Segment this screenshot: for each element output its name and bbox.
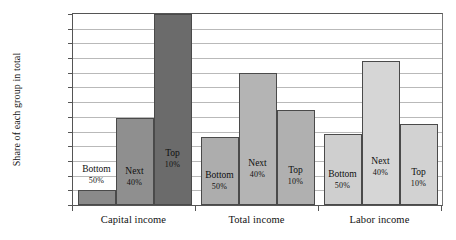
bar-label-share: 10%: [411, 178, 426, 189]
y-tick-mark: [68, 43, 73, 44]
bar-label-group: Next: [125, 166, 143, 176]
x-axis: Capital incomeTotal incomeLabor income: [72, 206, 443, 240]
bar-label-group: Bottom: [328, 169, 357, 179]
bar-label: Bottom50%: [82, 164, 111, 186]
y-tick-mark: [68, 161, 73, 162]
bar-label-share: 10%: [165, 159, 180, 170]
bar-label: Top10%: [411, 167, 426, 189]
bar-label-group: Next: [248, 158, 266, 168]
bar: Bottom50%: [201, 137, 239, 205]
bar-label: Top10%: [288, 165, 303, 187]
bar: Next40%: [239, 73, 277, 205]
y-tick-mark: [68, 190, 73, 191]
bar: Bottom50%: [78, 190, 116, 205]
bar: Bottom50%: [324, 134, 362, 205]
bar: Top10%: [277, 110, 315, 206]
y-tick-mark: [68, 132, 73, 133]
y-tick-mark: [68, 102, 73, 103]
bar-label-group: Top: [411, 167, 426, 177]
x-category-label: Total income: [228, 214, 284, 225]
x-tick-mark: [441, 206, 442, 211]
y-tick-mark: [68, 73, 73, 74]
bar-label: Bottom50%: [328, 169, 357, 191]
y-tick-mark: [68, 146, 73, 147]
x-tick-mark: [318, 206, 319, 211]
bar-label: Top10%: [165, 148, 180, 170]
bar-label-share: 40%: [125, 177, 143, 188]
bar-label-share: 50%: [82, 175, 111, 186]
bar-label-share: 50%: [328, 180, 357, 191]
plot-area: 0%5%10%15%20%25%30%35%40%45%50%55%60%65%…: [72, 13, 443, 206]
y-tick-mark: [68, 58, 73, 59]
y-tick-mark: [68, 87, 73, 88]
bar-label-group: Bottom: [205, 170, 234, 180]
gridline: [73, 58, 442, 59]
bar-label-group: Top: [288, 165, 303, 175]
bar-label-group: Next: [371, 156, 389, 166]
y-tick-mark: [68, 176, 73, 177]
bar-label: Next40%: [248, 158, 266, 180]
bar-label: Bottom50%: [205, 170, 234, 192]
bar: Next40%: [116, 118, 154, 205]
y-tick-mark: [68, 14, 73, 15]
gridline: [73, 29, 442, 30]
bar: Next40%: [362, 61, 400, 205]
x-category-label: Capital income: [101, 214, 166, 225]
bar-label-share: 40%: [248, 169, 266, 180]
x-tick-mark: [195, 206, 196, 211]
y-axis-title: Share of each group in total: [11, 10, 22, 210]
bar-label-share: 10%: [288, 176, 303, 187]
bar-label-group: Bottom: [82, 164, 111, 174]
bar-chart: Share of each group in total 0%5%10%15%2…: [0, 0, 456, 240]
bar-label-share: 50%: [205, 181, 234, 192]
bar-label-share: 40%: [371, 167, 389, 178]
y-tick-mark: [68, 29, 73, 30]
x-category-label: Labor income: [350, 214, 410, 225]
gridline: [73, 43, 442, 44]
bar-label: Next40%: [371, 156, 389, 178]
bar-label-group: Top: [165, 148, 180, 158]
x-tick-mark: [72, 206, 73, 211]
y-tick-mark: [68, 117, 73, 118]
bar-label: Next40%: [125, 166, 143, 188]
bar: Top10%: [400, 124, 438, 205]
bar: Top10%: [154, 14, 192, 205]
